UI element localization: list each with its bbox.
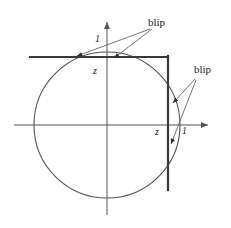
- diagram-canvas: [0, 0, 231, 228]
- blip-label-right: blip: [194, 64, 211, 75]
- blip-label-top: blip: [148, 17, 165, 28]
- blip-diagram-figure: blip blip 1 z z 1: [0, 0, 231, 228]
- y-axis-label-z: z: [93, 66, 97, 76]
- leader-line-blip-top-right: [114, 29, 152, 58]
- x-axis-label-z: z: [155, 127, 159, 137]
- y-axis-label-one: 1: [95, 34, 100, 44]
- x-axis-label-one: 1: [182, 126, 187, 136]
